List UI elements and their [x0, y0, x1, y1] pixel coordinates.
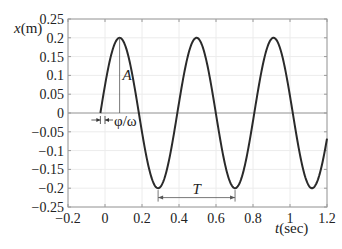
svg-text:0.4: 0.4 — [170, 211, 188, 226]
x-axis-label: t(sec) — [275, 220, 308, 237]
svg-text:0.1: 0.1 — [47, 68, 65, 83]
svg-text:1.2: 1.2 — [318, 211, 336, 226]
svg-text:0.15: 0.15 — [40, 50, 65, 65]
svg-text:−0.1: −0.1 — [39, 144, 64, 159]
svg-text:0.25: 0.25 — [40, 12, 65, 27]
svg-text:−0.15: −0.15 — [32, 162, 64, 177]
svg-text:0.05: 0.05 — [40, 87, 65, 102]
phase-label: φ/ω — [114, 113, 137, 129]
svg-text:0: 0 — [57, 106, 64, 121]
svg-text:0: 0 — [102, 211, 109, 226]
svg-text:−0.05: −0.05 — [32, 125, 64, 140]
svg-text:0.8: 0.8 — [244, 211, 262, 226]
svg-text:−0.25: −0.25 — [32, 200, 64, 215]
chart: −0.200.20.40.60.811.2 0.250.20.150.10.05… — [0, 0, 342, 249]
svg-text:−0.2: −0.2 — [39, 181, 64, 196]
annotations: Aφ/ωT — [91, 38, 235, 202]
svg-text:0.2: 0.2 — [47, 31, 65, 46]
amplitude-label: A — [122, 67, 133, 83]
svg-text:0.6: 0.6 — [207, 211, 225, 226]
y-tick-labels: 0.250.20.150.10.050−0.05−0.1−0.15−0.2−0.… — [32, 12, 64, 215]
svg-text:0.2: 0.2 — [133, 211, 151, 226]
y-axis-label: x(m) — [13, 20, 42, 37]
